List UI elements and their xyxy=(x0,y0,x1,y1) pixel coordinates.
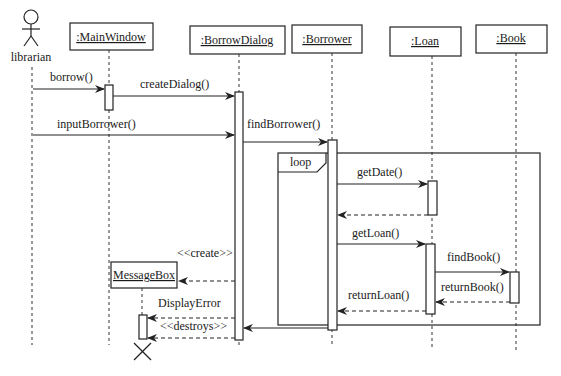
sequence-diagram: librarian :MainWindow :BorrowDialog :Bor… xyxy=(0,0,561,376)
message-destroys: <<destroys>> xyxy=(148,319,235,338)
actor-librarian: librarian xyxy=(11,10,52,64)
activation-bar xyxy=(235,92,243,340)
svg-text:<<destroys>>: <<destroys>> xyxy=(160,319,227,333)
activation-bar-book xyxy=(510,272,519,303)
message-findborrower: findBorrower() xyxy=(243,117,327,142)
object-label: :Borrower xyxy=(302,32,351,46)
activation-bar xyxy=(139,315,147,339)
message-borrow: borrow() xyxy=(33,70,104,89)
activation-bar-borrower xyxy=(328,140,337,330)
stick-figure-icon xyxy=(22,10,40,46)
svg-text:findBorrower(): findBorrower() xyxy=(247,117,320,131)
svg-text:returnBook(): returnBook() xyxy=(441,280,504,294)
activation-bar-loan-2 xyxy=(426,244,435,314)
svg-text:findBook(): findBook() xyxy=(447,250,500,264)
message-getloan: getLoan() xyxy=(337,226,425,244)
object-label: :Loan xyxy=(411,34,439,48)
fragment-label: loop xyxy=(290,155,311,169)
svg-text:<<create>>: <<create>> xyxy=(177,246,233,260)
svg-text:getDate(): getDate() xyxy=(357,165,402,179)
svg-text:inputBorrower(): inputBorrower() xyxy=(57,117,136,131)
object-label: :MainWindow xyxy=(76,30,146,44)
lifeline-messagebox: MessageBox xyxy=(111,262,177,360)
svg-text:returnLoan(): returnLoan() xyxy=(348,288,409,302)
svg-text:DisplayError: DisplayError xyxy=(158,296,221,310)
message-returnbook: returnBook() xyxy=(436,280,510,302)
destroy-x-icon xyxy=(134,343,151,360)
svg-text:getLoan(): getLoan() xyxy=(352,226,399,240)
object-label: MessageBox xyxy=(113,268,175,282)
object-label: :Book xyxy=(496,31,525,45)
message-inputborrower: inputBorrower() xyxy=(33,117,234,135)
message-getdate: getDate() xyxy=(337,165,427,184)
message-createdialog: createDialog() xyxy=(113,77,234,96)
message-displayerror: DisplayError xyxy=(148,296,235,318)
svg-text:createDialog(): createDialog() xyxy=(140,77,209,91)
activation-bar xyxy=(105,85,113,110)
actor-label: librarian xyxy=(11,50,52,64)
object-label: :BorrowDialog xyxy=(201,33,274,47)
svg-text:borrow(): borrow() xyxy=(50,70,93,84)
activation-bar-loan-1 xyxy=(428,181,437,215)
message-returnloan: returnLoan() xyxy=(338,288,426,311)
message-findbook: findBook() xyxy=(435,250,509,272)
message-create: <<create>> xyxy=(177,246,235,281)
